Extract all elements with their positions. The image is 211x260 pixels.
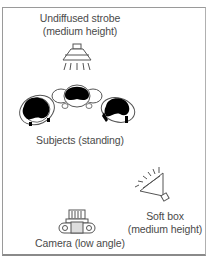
- camera-label: Camera (low angle): [25, 237, 135, 250]
- camera-top-view-icon: [0, 0, 211, 260]
